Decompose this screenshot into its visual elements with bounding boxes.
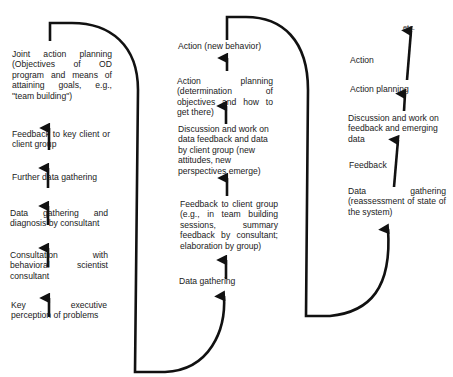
step-discussion-c3: Discussion and work on feedback and emer… [348, 113, 450, 144]
step-feedback-key-client: Feedback to key client or client group [12, 129, 110, 150]
step-key-executive-perception: Key executive perception of problems [11, 300, 107, 321]
step-data-gathering-c2: Data gathering [179, 276, 269, 286]
step-discussion-c2: Discussion and work on data feedback and… [178, 124, 278, 176]
step-action-new-behavior: Action (new behavior) [178, 41, 288, 51]
step-action-c3: Action [350, 55, 410, 65]
step-joint-action-planning: Joint action planning (Objectives of OD … [12, 49, 112, 101]
step-feedback-client-group: Feedback to client group (e.g., in team … [180, 199, 278, 251]
arrow-c3-2 [404, 94, 405, 111]
step-diagnosis-by-consultant: Data gathering and diagnosis by consulta… [10, 208, 108, 229]
step-action-planning-c2: Action planning (determination of object… [177, 76, 273, 118]
step-feedback-c3: Feedback [349, 160, 409, 170]
step-etc: etc. [403, 23, 423, 33]
step-further-data-gathering: Further data gathering [12, 172, 117, 182]
step-data-gathering-reassessment: Data gathering (reassessment of state of… [348, 186, 446, 217]
step-consultation: Consultation with behavioral scientist c… [10, 250, 108, 281]
step-action-planning-c3: Action planning [350, 84, 430, 94]
